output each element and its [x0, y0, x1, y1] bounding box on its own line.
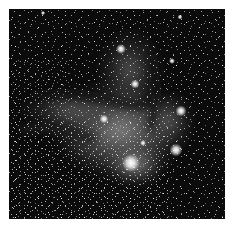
astronomy-photo: Star field with nebula: [9, 9, 225, 219]
star-field-image: [9, 9, 225, 219]
